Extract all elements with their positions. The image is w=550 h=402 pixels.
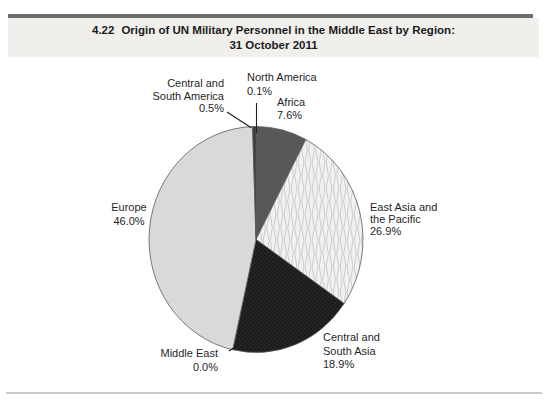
label-east-asia-pacific: East Asia and the Pacific 26.9% bbox=[370, 201, 437, 237]
pie-chart bbox=[0, 0, 550, 402]
label-central-south-asia: Central and South Asia 18.9% bbox=[323, 331, 380, 372]
bottom-rule bbox=[6, 392, 542, 394]
label-value: 0.0% bbox=[161, 360, 218, 374]
label-europe: Europe 46.0% bbox=[98, 201, 160, 228]
label-text: Europe bbox=[98, 201, 160, 215]
label-text: North America bbox=[247, 70, 317, 84]
label-text: South America bbox=[152, 90, 224, 103]
label-text: Middle East bbox=[161, 346, 218, 360]
label-text: East Asia and bbox=[370, 201, 437, 213]
label-text: the Pacific bbox=[370, 213, 437, 225]
label-value: 18.9% bbox=[323, 358, 380, 372]
label-text: Central and bbox=[152, 77, 224, 90]
label-north-america: North America 0.1% bbox=[247, 70, 317, 98]
label-text: Africa bbox=[277, 96, 305, 109]
label-central-south-america: Central and South America 0.5% bbox=[152, 77, 224, 115]
pie-slice-europe bbox=[149, 127, 256, 350]
label-africa: Africa 7.6% bbox=[277, 96, 305, 121]
label-middle-east: Middle East 0.0% bbox=[161, 346, 218, 374]
pie-slices-group bbox=[149, 126, 363, 352]
label-text: Central and bbox=[323, 331, 380, 345]
figure-page: 4.22Origin of UN Military Personnel in t… bbox=[0, 0, 550, 402]
label-value: 26.9% bbox=[370, 225, 437, 237]
label-value: 46.0% bbox=[98, 215, 160, 229]
leader-line-central-south-america bbox=[227, 112, 252, 128]
label-text: South Asia bbox=[323, 345, 380, 359]
label-value: 0.5% bbox=[152, 102, 224, 115]
label-value: 7.6% bbox=[277, 109, 305, 122]
